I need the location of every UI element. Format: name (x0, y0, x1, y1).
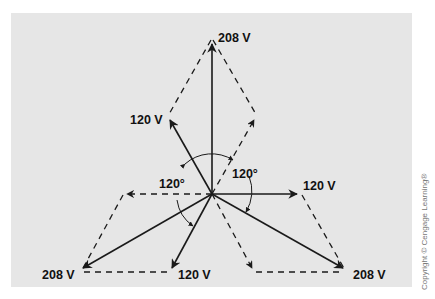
dashed-phasor-up-right (212, 120, 254, 194)
angle-arc-top (185, 154, 233, 164)
label-bottom-right-208: 208 V (353, 268, 386, 282)
label-angle-left: 120° (159, 177, 185, 191)
label-upper-left-120: 120 V (130, 113, 163, 127)
phasor-diagram: 208 V 120 V 120 V 120 V 208 V 208 V 120°… (0, 0, 435, 299)
label-top-208: 208 V (218, 31, 251, 45)
copyright-text: Copyright © Cengage Learning® (420, 174, 429, 290)
copyright-notice: Copyright © Cengage Learning® (418, 160, 432, 290)
dashed-left-down (82, 195, 123, 270)
dashed-top-left (168, 40, 211, 116)
label-angle-right: 120° (232, 167, 258, 181)
phasor-bottom-right-208 (212, 194, 343, 268)
dashed-right-down (302, 195, 345, 270)
label-bottom-120: 120 V (178, 268, 211, 282)
label-bottom-left-208: 208 V (42, 268, 75, 282)
label-right-120: 120 V (303, 179, 336, 193)
dashed-top-right (213, 40, 257, 116)
